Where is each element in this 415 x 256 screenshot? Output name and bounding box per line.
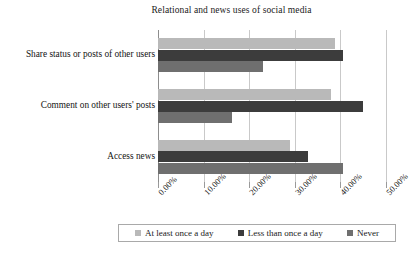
legend-label: Never bbox=[357, 228, 379, 238]
gridline bbox=[386, 30, 387, 182]
bar bbox=[158, 112, 232, 123]
chart-title: Relational and news uses of social media bbox=[0, 5, 415, 15]
bar bbox=[158, 38, 335, 49]
legend-swatch-icon bbox=[347, 230, 353, 236]
x-tick-label: 50.00% bbox=[384, 171, 410, 197]
legend-label: Less than once a day bbox=[248, 228, 323, 238]
legend-swatch-icon bbox=[135, 230, 141, 236]
bar bbox=[158, 89, 331, 100]
bar-group bbox=[158, 89, 386, 123]
legend-item[interactable]: Less than once a day bbox=[238, 228, 323, 238]
bar-group bbox=[158, 38, 386, 72]
bar bbox=[158, 140, 290, 151]
x-axis-tick-labels: 0.00%10.00%20.00%30.00%40.00%50.00% bbox=[0, 188, 415, 222]
legend-item[interactable]: Never bbox=[347, 228, 379, 238]
bar bbox=[158, 50, 343, 61]
legend-label: At least once a day bbox=[145, 228, 213, 238]
category-label: Comment on other users' posts bbox=[3, 100, 155, 110]
category-axis-labels: Share status or posts of other usersComm… bbox=[0, 30, 155, 182]
bar bbox=[158, 151, 308, 162]
chart-legend: At least once a dayLess than once a dayN… bbox=[118, 224, 396, 242]
legend-swatch-icon bbox=[238, 230, 244, 236]
bar bbox=[158, 61, 263, 72]
legend-item[interactable]: At least once a day bbox=[135, 228, 213, 238]
category-label: Access news bbox=[3, 151, 155, 161]
plot-area bbox=[158, 30, 386, 182]
bar bbox=[158, 163, 343, 174]
bar-chart: Relational and news uses of social media… bbox=[0, 0, 415, 256]
category-label: Share status or posts of other users bbox=[3, 49, 155, 59]
bar-group bbox=[158, 140, 386, 174]
bar bbox=[158, 101, 363, 112]
